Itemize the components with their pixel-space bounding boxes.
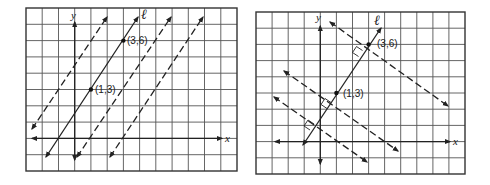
- right-figure: y x ℓ (1,3) (3,6): [256, 11, 465, 174]
- left-y-axis-label: y: [70, 9, 76, 21]
- left-point-1-3: [89, 87, 93, 91]
- right-point-1-3-label: (1,3): [343, 88, 364, 99]
- right-perpendicular-line-2: [284, 71, 398, 151]
- right-angle-mark-1: [353, 47, 363, 57]
- diagram-canvas: y x ℓ (1,3) (3,6): [0, 0, 490, 185]
- right-point-3-6: [366, 42, 370, 46]
- left-line-l-label: ℓ: [141, 7, 147, 22]
- right-y-axis-label: y: [315, 11, 321, 23]
- left-point-3-6-label: (3,6): [127, 35, 148, 46]
- left-point-1-3-label: (1,3): [95, 84, 116, 95]
- left-grid: [26, 8, 237, 171]
- right-line-l-label: ℓ: [374, 13, 380, 28]
- left-figure: y x ℓ (1,3) (3,6): [26, 7, 237, 171]
- right-point-3-6-label: (3,6): [377, 38, 398, 49]
- left-point-3-6: [121, 38, 125, 42]
- right-point-1-3: [334, 91, 338, 95]
- left-x-axis-label: x: [224, 132, 230, 144]
- right-x-axis-label: x: [452, 135, 458, 147]
